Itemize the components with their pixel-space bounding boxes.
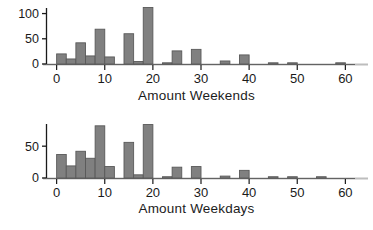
x-tick-label: 50 xyxy=(290,71,304,86)
histogram-bar xyxy=(143,8,153,64)
histogram-bar xyxy=(163,177,173,178)
x-tick-label: 20 xyxy=(146,185,160,200)
x-tick-label: 10 xyxy=(98,71,112,86)
x-axis-title-weekends: Amount Weekends xyxy=(10,88,373,103)
histogram-bar xyxy=(163,63,173,64)
histogram-bar xyxy=(143,125,153,178)
histogram-bar xyxy=(240,170,250,178)
x-tick-label: 40 xyxy=(242,185,256,200)
histogram-bar xyxy=(86,158,96,178)
x-tick-label: 20 xyxy=(146,71,160,86)
histogram-bar xyxy=(288,177,298,178)
histogram-bar xyxy=(317,177,327,178)
histogram-bar xyxy=(268,177,278,178)
x-tick-label: 30 xyxy=(194,185,208,200)
x-tick-label: 50 xyxy=(290,185,304,200)
y-tick-label: 100 xyxy=(18,7,39,21)
x-tick-label: 30 xyxy=(194,71,208,86)
x-tick-label: 0 xyxy=(53,185,60,200)
histogram-bar xyxy=(124,34,134,64)
histogram-bar xyxy=(240,55,250,64)
histogram-bar xyxy=(191,167,201,178)
histogram-bar xyxy=(124,142,134,178)
histogram-bar xyxy=(66,59,76,64)
histogram-bar xyxy=(57,54,67,64)
histogram-bar xyxy=(191,49,201,64)
histogram-bar xyxy=(105,167,115,178)
histogram-bar xyxy=(134,61,144,64)
chart-panel-weekdays: 0500102030405060 Amount Weekdays xyxy=(0,112,373,230)
histogram-bar xyxy=(76,151,86,178)
histogram-bar xyxy=(105,57,115,64)
histogram-bar xyxy=(95,29,105,64)
histogram-bar xyxy=(172,167,182,178)
chart-panel-weekends: 0501000102030405060 Amount Weekends xyxy=(0,0,373,112)
histogram-bar xyxy=(336,63,346,64)
y-tick-label: 0 xyxy=(32,171,39,185)
plot-area-weekdays: 0500102030405060 xyxy=(0,112,373,200)
x-tick-label: 60 xyxy=(338,185,352,200)
histogram-bar xyxy=(288,63,298,64)
y-tick-label: 0 xyxy=(32,57,39,71)
plot-area-weekends: 0501000102030405060 xyxy=(0,0,373,88)
x-tick-label: 0 xyxy=(53,71,60,86)
histogram-bar xyxy=(76,43,86,64)
x-tick-label: 10 xyxy=(98,185,112,200)
histogram-bar xyxy=(134,175,144,178)
histogram-bar xyxy=(66,166,76,178)
histogram-bar xyxy=(57,154,67,178)
histogram-bar xyxy=(172,51,182,64)
histogram-bar xyxy=(95,126,105,178)
histogram-weekdays: 0500102030405060 xyxy=(0,112,373,202)
x-tick-label: 40 xyxy=(242,71,256,86)
x-axis-title-weekdays: Amount Weekdays xyxy=(10,201,373,216)
histogram-bar xyxy=(86,56,96,64)
histogram-bar xyxy=(268,63,278,64)
x-tick-label: 60 xyxy=(338,71,352,86)
figure-two-histograms: 0501000102030405060 Amount Weekends 0500… xyxy=(0,0,373,230)
y-tick-label: 50 xyxy=(25,140,39,154)
y-tick-label: 50 xyxy=(25,32,39,46)
histogram-bar xyxy=(220,176,230,178)
histogram-weekends: 0501000102030405060 xyxy=(0,0,373,88)
histogram-bar xyxy=(220,61,230,64)
